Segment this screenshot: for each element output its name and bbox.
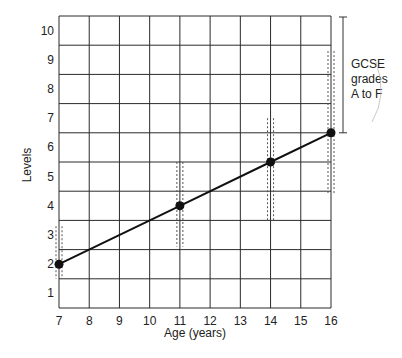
y-tick-label: 6	[47, 140, 54, 154]
x-tick-label: 9	[116, 314, 123, 328]
x-tick-label: 13	[234, 314, 248, 328]
y-axis-ticks: 12345678910	[41, 24, 55, 301]
data-series	[55, 128, 336, 268]
y-tick-label: 4	[47, 199, 54, 213]
levels-chart: 78910111213141516 12345678910 Age (years…	[0, 0, 402, 358]
y-tick-label: 5	[47, 170, 54, 184]
annotation-line-2: grades	[351, 72, 388, 86]
data-point	[55, 260, 64, 269]
data-point	[175, 201, 184, 210]
y-tick-label: 3	[47, 228, 54, 242]
x-tick-label: 16	[324, 314, 338, 328]
x-tick-label: 8	[86, 314, 93, 328]
data-point	[327, 128, 336, 137]
x-tick-label: 15	[294, 314, 308, 328]
series-line	[59, 133, 331, 264]
annotation-line-1: GCSE	[351, 57, 385, 71]
x-axis-title: Age (years)	[164, 326, 226, 340]
x-tick-label: 14	[264, 314, 278, 328]
gcse-bracket	[339, 17, 347, 133]
annotation-line-3: A to F	[351, 87, 382, 101]
x-tick-label: 10	[143, 314, 157, 328]
x-tick-label: 7	[56, 314, 63, 328]
y-tick-label: 9	[47, 53, 54, 67]
y-tick-label: 7	[47, 111, 54, 125]
y-tick-label: 1	[47, 286, 54, 300]
y-tick-label: 2	[47, 257, 54, 271]
y-axis-title: Levels	[20, 148, 34, 183]
y-tick-label: 10	[41, 24, 55, 38]
data-point	[266, 158, 275, 167]
y-tick-label: 8	[47, 82, 54, 96]
grid	[59, 16, 331, 308]
